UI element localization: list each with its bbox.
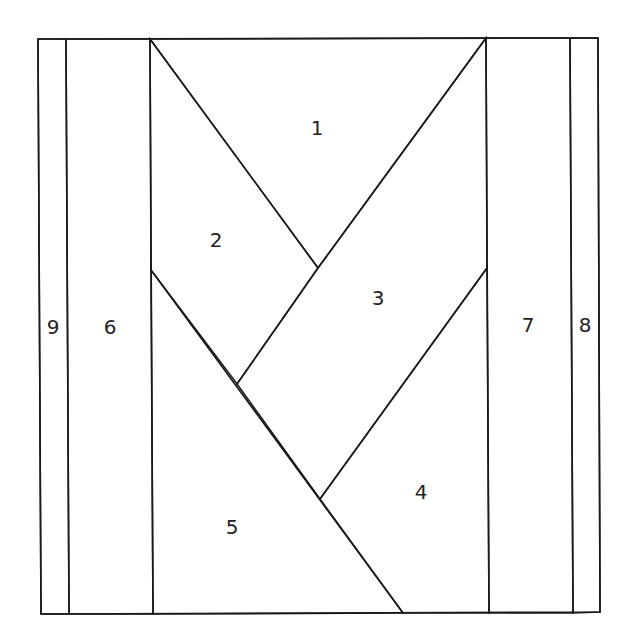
piece-label-1: 1 [311,116,324,140]
piece-label-8: 8 [579,313,592,337]
piece-label-4: 4 [415,480,428,504]
piece-label-2: 2 [210,228,223,252]
piece-label-9: 9 [47,315,60,339]
piece-4 [320,268,489,613]
piece-3 [237,38,487,499]
piece-label-6: 6 [104,315,117,339]
piece-label-5: 5 [226,515,239,539]
piece-label-3: 3 [372,286,385,310]
quilt-block-diagram: 1 2 3 4 5 6 7 8 9 [0,0,635,636]
piece-1 [150,38,486,268]
piece-2 [150,39,318,384]
piece-5 [151,270,403,614]
piece-label-7: 7 [522,313,535,337]
